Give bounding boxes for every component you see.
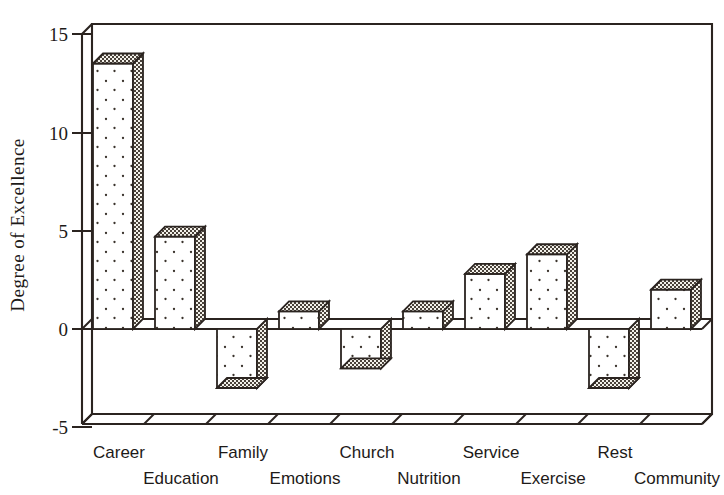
bar (527, 244, 577, 329)
bar (651, 280, 701, 329)
x-tick-label: Family (218, 443, 269, 462)
y-tick-label: 15 (49, 24, 68, 45)
y-tick-label: 0 (59, 319, 69, 340)
y-tick-label: 5 (59, 221, 69, 242)
y-tick-label: 10 (49, 123, 68, 144)
bar (589, 319, 639, 388)
bar (279, 301, 329, 329)
x-tick-label: Nutrition (397, 469, 460, 488)
x-tick-label: Church (340, 443, 395, 462)
bar (217, 319, 267, 388)
x-tick-label: Career (93, 443, 145, 462)
bar-chart: 15 10 5 0 -5 Degree of Excellence Career… (0, 0, 724, 495)
bar (403, 301, 453, 329)
x-tick-label: Community (634, 469, 720, 488)
chart-container: 15 10 5 0 -5 Degree of Excellence Career… (0, 0, 724, 495)
x-tick-label: Service (463, 443, 520, 462)
y-tick-label: -5 (52, 417, 68, 438)
bar (93, 54, 143, 330)
x-tick-label: Emotions (270, 469, 341, 488)
x-tick-label: Rest (598, 443, 633, 462)
y-axis-title: Degree of Excellence (7, 138, 28, 312)
bar (465, 264, 515, 329)
x-tick-label: Exercise (520, 469, 585, 488)
bar (155, 227, 205, 329)
x-tick-label: Education (143, 469, 219, 488)
